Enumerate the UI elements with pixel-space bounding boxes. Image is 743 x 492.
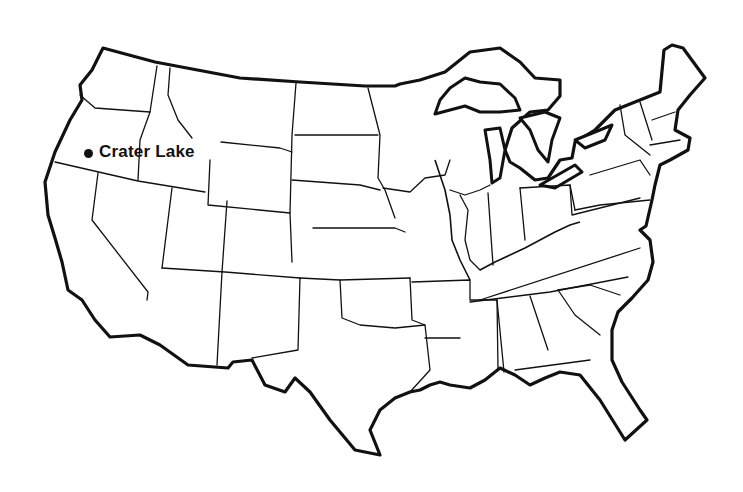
lake-huron — [520, 112, 560, 162]
lake-michigan — [485, 128, 505, 183]
lake-ontario — [575, 125, 612, 148]
crater-lake-label: Crater Lake — [99, 142, 195, 162]
river-border-ohio — [480, 222, 580, 270]
us-outline — [45, 45, 705, 455]
state-borders — [55, 66, 680, 392]
river-border-mississippi — [435, 160, 470, 280]
crater-lake-marker-icon — [84, 149, 93, 158]
lake-superior — [435, 78, 520, 114]
lake-erie — [540, 165, 582, 188]
us-outline-map — [0, 0, 743, 492]
